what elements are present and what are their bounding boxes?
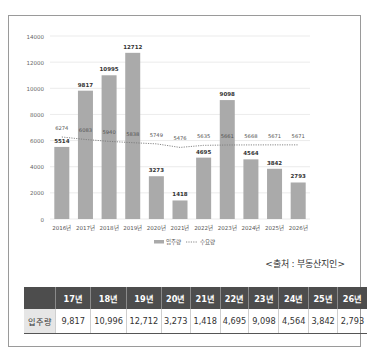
x-tick-label: 2019년 <box>123 224 142 231</box>
table-header-cell: 20년 <box>161 287 190 309</box>
line-value-label: 5671 <box>292 133 305 139</box>
bar <box>267 169 282 219</box>
bar <box>220 100 235 219</box>
bar <box>102 75 117 219</box>
bar-value-label: 4564 <box>243 150 258 156</box>
x-tick-label: 2022년 <box>194 224 213 231</box>
bar-value-label: 4695 <box>196 149 211 155</box>
y-tick-label: 0 <box>41 217 45 223</box>
table-header-cell: 22년 <box>220 287 249 309</box>
bar-value-label: 9098 <box>220 91 235 97</box>
source-note: <출처 : 부동산지인> <box>265 257 345 270</box>
bar-value-label: 9817 <box>78 82 93 88</box>
table-cell: 12,712 <box>126 309 161 334</box>
line-value-label: 5671 <box>268 133 281 139</box>
table-cell: 4,695 <box>220 309 249 334</box>
bar-value-label: 3273 <box>149 167 164 173</box>
legend-bar-swatch <box>154 240 164 244</box>
line-value-label: 5476 <box>173 135 186 141</box>
table-row: 입주량 9,817 10,996 12,712 3,273 1,418 4,69… <box>24 309 367 334</box>
table-cell: 3,842 <box>309 309 338 334</box>
line-value-label: 6083 <box>79 127 92 133</box>
y-tick-label: 4000 <box>30 164 44 170</box>
table-cell: 4,564 <box>279 309 309 334</box>
table-cell: 10,996 <box>91 309 127 334</box>
bar-value-label: 5514 <box>54 138 69 144</box>
table-header-cell: 26년 <box>338 287 367 309</box>
y-tick-label: 6000 <box>30 138 44 144</box>
bar <box>196 158 211 219</box>
bar <box>243 159 258 219</box>
table-header-cell: 19년 <box>126 287 161 309</box>
table-header-cell: 17년 <box>56 287 91 309</box>
line-value-label: 6274 <box>55 125 69 131</box>
x-tick-label: 2021년 <box>171 224 190 231</box>
table-header-cell: 18년 <box>91 287 127 309</box>
y-tick-label: 2000 <box>30 190 44 196</box>
bar <box>291 182 306 219</box>
bar <box>173 200 188 219</box>
supply-table: 17년 18년 19년 20년 21년 22년 23년 24년 25년 26년 … <box>24 287 367 334</box>
x-tick-label: 2024년 <box>241 224 260 231</box>
bar <box>54 147 69 219</box>
table-cell: 3,273 <box>161 309 190 334</box>
line-value-label: 5635 <box>197 133 210 139</box>
table-header-cell: 24년 <box>279 287 309 309</box>
bar-value-label: 3842 <box>267 160 282 166</box>
line-value-label: 5940 <box>102 129 115 135</box>
table-cell: 1,418 <box>190 309 220 334</box>
table-header-cell: 25년 <box>309 287 338 309</box>
table-cell: 9,098 <box>249 309 279 334</box>
line-value-label: 5668 <box>244 133 257 139</box>
bar <box>78 91 93 219</box>
x-tick-label: 2017년 <box>76 224 95 231</box>
x-tick-label: 2018년 <box>100 224 119 231</box>
line-value-label: 5838 <box>126 131 139 137</box>
bar-value-label: 2793 <box>291 173 306 179</box>
x-tick-label: 2016년 <box>52 224 71 231</box>
bar-value-label: 12712 <box>123 44 142 50</box>
x-tick-label: 2026년 <box>289 224 308 231</box>
y-tick-label: 12000 <box>27 60 45 66</box>
table-header-cell: 23년 <box>249 287 279 309</box>
table-cell: 2,793 <box>338 309 367 334</box>
y-tick-label: 10000 <box>27 86 45 92</box>
table-header-cell: 21년 <box>190 287 220 309</box>
legend-line-label: 수요량 <box>200 239 215 246</box>
y-tick-label: 8000 <box>30 112 44 118</box>
x-tick-label: 2025년 <box>265 224 284 231</box>
y-tick-label: 14000 <box>27 34 45 40</box>
bar-line-chart: 0200040006000800010000120001400055142016… <box>0 0 367 260</box>
bar-value-label: 1418 <box>172 191 187 197</box>
table-cell: 9,817 <box>56 309 91 334</box>
bar <box>149 176 164 219</box>
bar-value-label: 10995 <box>100 66 119 72</box>
line-value-label: 5661 <box>221 133 234 139</box>
table-header-row: 17년 18년 19년 20년 21년 22년 23년 24년 25년 26년 <box>24 287 367 309</box>
x-tick-label: 2020년 <box>147 224 166 231</box>
table-header-cell <box>24 287 56 309</box>
row-label: 입주량 <box>24 309 56 334</box>
legend-bar-label: 입주량 <box>166 238 181 246</box>
x-tick-label: 2023년 <box>218 224 237 231</box>
line-value-label: 5749 <box>150 132 163 138</box>
